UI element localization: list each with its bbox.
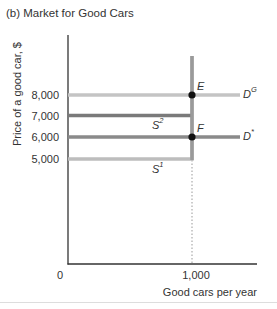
curve-label-dstar: D* xyxy=(243,130,254,142)
equilibrium-point-f xyxy=(188,133,195,140)
curve-label-dstar-main: D xyxy=(243,130,251,142)
curve-label-dg-sup: G xyxy=(251,85,257,94)
x-tick-1000: 1,000 xyxy=(182,269,210,281)
curve-label-s1: S1 xyxy=(152,163,164,175)
supply-curve-s1 xyxy=(68,56,192,159)
curve-label-s1-sup: 1 xyxy=(159,160,163,169)
point-label-f: F xyxy=(197,122,204,134)
curve-label-dstar-sup: * xyxy=(251,127,254,136)
plot-area xyxy=(0,0,277,309)
curve-label-dg: DG xyxy=(243,88,257,100)
curve-label-dg-main: D xyxy=(243,88,251,100)
point-label-e: E xyxy=(197,80,204,92)
curve-label-s2: S2 xyxy=(152,119,164,131)
x-tick-0: 0 xyxy=(57,269,63,281)
x-axis-label: Good cars per year xyxy=(163,286,257,298)
curve-label-s2-sup: 2 xyxy=(159,116,163,125)
bottom-divider xyxy=(0,302,277,303)
equilibrium-point-e xyxy=(188,91,195,98)
